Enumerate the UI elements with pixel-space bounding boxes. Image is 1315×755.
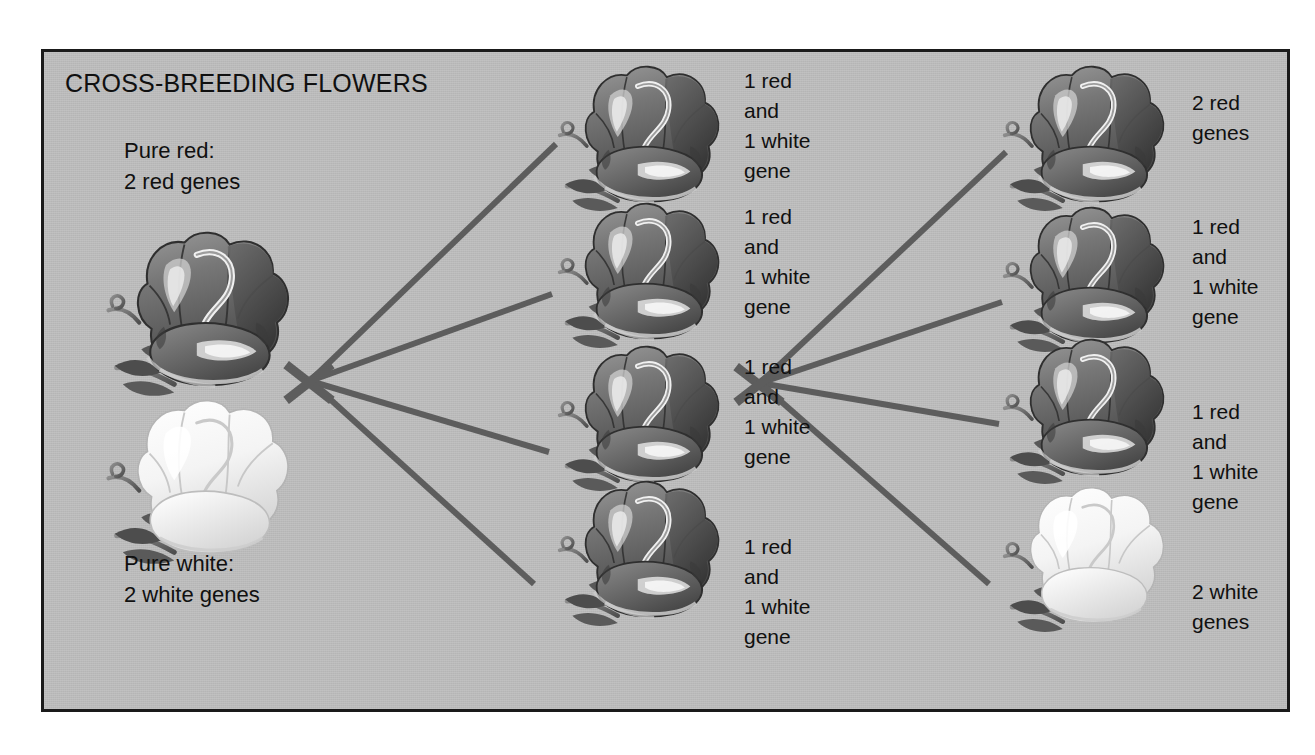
flower-f2-3 [999,332,1181,500]
f2-label-3: 1 red and 1 white gene [1192,397,1259,517]
f2-label-2: 1 red and 1 white gene [1192,212,1259,332]
figure-page: CROSS-BREEDING FLOWERS [0,0,1315,755]
f1-label-4: 1 red and 1 white gene [744,532,811,652]
diagram-panel: CROSS-BREEDING FLOWERS [41,49,1290,712]
flower-f1-4 [554,474,736,642]
f1-label-1: 1 red and 1 white gene [744,66,811,186]
flower-parent-red [102,224,308,414]
f2-label-4: 2 white genes [1192,577,1259,637]
parent-white-label: Pure white: 2 white genes [124,548,260,610]
flower-f2-4 [999,480,1181,648]
f1-label-2: 1 red and 1 white gene [744,202,811,322]
page-title: CROSS-BREEDING FLOWERS [65,69,428,98]
f2-label-1: 2 red genes [1192,88,1249,148]
cross-symbol-parents [282,355,336,409]
f1-label-3: 1 red and 1 white gene [744,352,811,472]
parent-red-label: Pure red: 2 red genes [124,135,240,197]
